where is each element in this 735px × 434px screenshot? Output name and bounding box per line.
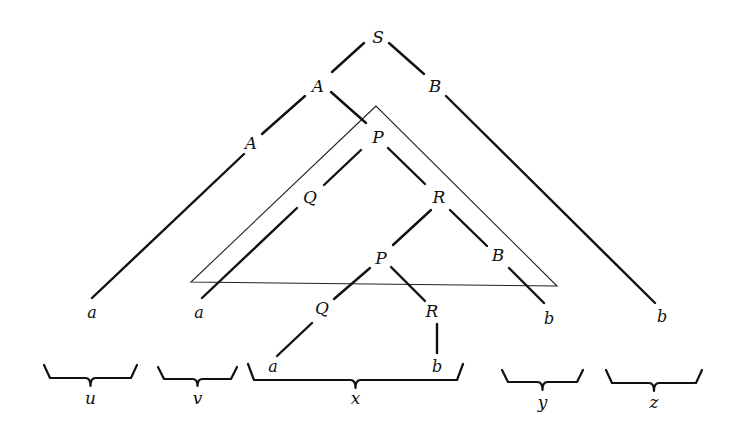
tree-edge-Q1-a2 xyxy=(202,208,297,298)
node-Q2: Q xyxy=(315,298,329,318)
node-R2: R xyxy=(425,301,439,321)
tree-edge-P1-R1 xyxy=(388,148,425,184)
brace-v xyxy=(158,367,237,386)
brace-y xyxy=(502,370,583,390)
tree-edge-P1-Q1 xyxy=(324,150,361,185)
terminal-a1: a xyxy=(87,303,97,322)
brace-label-u: u xyxy=(85,388,96,408)
brace-z xyxy=(606,370,702,391)
brace-label-y: y xyxy=(537,392,548,412)
node-R1: R xyxy=(432,187,446,207)
terminal-a2: a xyxy=(194,303,204,322)
node-B2: B xyxy=(491,245,505,265)
brace-x xyxy=(248,364,463,388)
tree-edge-B1-b2 xyxy=(446,96,655,303)
terminal-a3: a xyxy=(268,357,278,376)
terminal-b2: b xyxy=(657,307,667,326)
terminal-b1: b xyxy=(544,309,554,328)
brace-label-v: v xyxy=(193,388,203,408)
terminal-b3: b xyxy=(432,357,442,376)
decomposition-braces: uvxyz xyxy=(44,364,702,412)
node-P2: P xyxy=(374,248,387,268)
parse-tree-diagram: SABAPQRPBQRaabbab uvxyz xyxy=(0,0,735,434)
tree-edge-A1-P1 xyxy=(331,92,366,123)
node-A1: A xyxy=(310,76,324,96)
node-B1: B xyxy=(428,76,442,96)
node-S: S xyxy=(372,27,384,47)
tree-edge-Q2-a3 xyxy=(277,323,312,356)
brace-label-x: x xyxy=(351,388,361,408)
tree-edge-S-B1 xyxy=(389,43,424,74)
tree-edge-R1-P2 xyxy=(393,210,431,245)
node-P1: P xyxy=(371,127,384,147)
node-A2: A xyxy=(243,133,257,153)
tree-edge-R1-B2 xyxy=(450,210,487,246)
tree-edge-A1-A2 xyxy=(262,96,305,134)
tree-edge-S-A1 xyxy=(332,43,364,72)
node-Q1: Q xyxy=(303,187,317,207)
brace-u xyxy=(44,365,137,386)
tree-nodes: SABAPQRPBQRaabbab xyxy=(87,27,667,376)
tree-edges xyxy=(92,43,655,356)
brace-label-z: z xyxy=(649,392,660,412)
tree-edge-A2-a1 xyxy=(92,154,244,298)
